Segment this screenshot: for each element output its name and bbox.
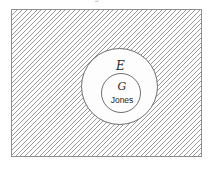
- figure-caption: Figure 1.2: [0, 0, 215, 2]
- element-jones-label: Jones: [102, 95, 142, 105]
- set-e-label: E: [82, 60, 159, 73]
- universal-set-region: E G Jones: [11, 9, 202, 157]
- set-g-circle: G Jones: [101, 73, 141, 113]
- set-g-label: G: [102, 81, 142, 93]
- set-e-circle: E G Jones: [81, 48, 158, 125]
